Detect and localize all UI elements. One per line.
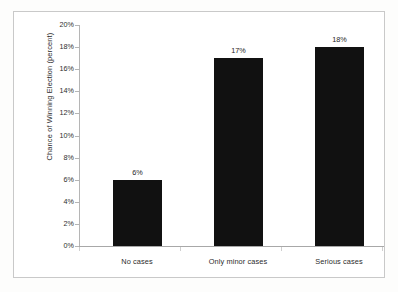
y-tick-mark <box>75 180 79 181</box>
bar-serious-cases[interactable]: 18% <box>315 47 364 246</box>
x-category-label-only-minor-cases: Only minor cases <box>209 257 268 266</box>
x-tick-mark <box>281 247 282 251</box>
y-tick-mark <box>75 158 79 159</box>
y-tick-label: 16% <box>60 64 74 73</box>
bar-value-label: 6% <box>132 168 143 177</box>
y-tick-label: 0% <box>64 241 74 250</box>
y-axis-title: Chance of Winning Election (percent) <box>45 2 54 192</box>
y-tick-label: 8% <box>64 153 74 162</box>
x-category-label-no-cases: No cases <box>121 257 153 266</box>
y-tick-mark <box>75 25 79 26</box>
x-axis-line <box>79 246 384 247</box>
y-tick-mark <box>75 47 79 48</box>
y-tick-label: 4% <box>64 197 74 206</box>
y-tick-label: 14% <box>60 86 74 95</box>
y-tick-label: 6% <box>64 175 74 184</box>
y-tick-label: 18% <box>60 42 74 51</box>
x-tick-mark <box>79 247 80 251</box>
x-category-label-serious-cases: Serious cases <box>315 257 363 266</box>
x-tick-mark <box>382 247 383 251</box>
y-tick-label: 2% <box>64 219 74 228</box>
y-tick-mark <box>75 69 79 70</box>
plot-area: 0% 2% 4% 6% 8% 10% <box>79 25 386 259</box>
y-tick-mark <box>75 136 79 137</box>
y-axis-line <box>79 25 80 247</box>
bar-value-label: 17% <box>231 46 246 55</box>
bar-only-minor-cases[interactable]: 17% <box>214 58 263 246</box>
y-tick-label: 10% <box>60 131 74 140</box>
y-tick-mark <box>75 113 79 114</box>
bar-no-cases[interactable]: 6% <box>113 180 162 246</box>
figure: Chance of Winning Election (percent) 0% … <box>0 0 398 292</box>
bar-value-label: 18% <box>332 35 347 44</box>
y-tick-mark <box>75 91 79 92</box>
y-tick-label: 12% <box>60 108 74 117</box>
y-tick-mark <box>75 202 79 203</box>
x-tick-mark <box>180 247 181 251</box>
chart-outer-frame: Chance of Winning Election (percent) 0% … <box>13 11 385 278</box>
y-tick-label: 20% <box>60 20 74 29</box>
y-tick-mark <box>75 224 79 225</box>
